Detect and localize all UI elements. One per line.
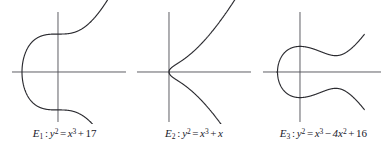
curve-panel-e2: E2:y2=x3+x <box>129 0 258 156</box>
curve-path-e1 <box>22 0 124 124</box>
elliptic-curve-figure: E1:y2=x3+17 E2:y2=x3+x E3:y2=x3−4x2+16 <box>0 0 388 156</box>
caption-e1: E1:y2=x3+17 <box>0 126 129 140</box>
plot-e3 <box>259 0 388 124</box>
plot-e2 <box>129 0 258 124</box>
curve-path-e2 <box>169 0 252 124</box>
curve-panel-e1: E1:y2=x3+17 <box>0 0 129 156</box>
curve-panel-e3: E3:y2=x3−4x2+16 <box>259 0 388 156</box>
plot-e1 <box>0 0 129 124</box>
caption-e3: E3:y2=x3−4x2+16 <box>259 126 388 140</box>
caption-e2: E2:y2=x3+x <box>129 126 258 140</box>
